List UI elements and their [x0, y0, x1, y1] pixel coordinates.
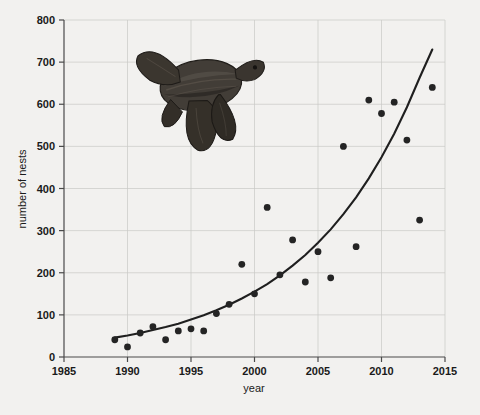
data-point — [416, 217, 423, 224]
data-point — [213, 310, 220, 317]
data-point — [162, 336, 169, 343]
data-point — [124, 343, 131, 350]
data-point — [137, 330, 144, 337]
data-point — [111, 336, 118, 343]
y-tick-label: 600 — [37, 98, 55, 110]
y-tick-label: 800 — [37, 14, 55, 26]
y-axis-label: number of nests — [16, 149, 28, 228]
data-point — [391, 99, 398, 106]
data-point — [340, 143, 347, 150]
data-point — [150, 323, 157, 330]
data-point — [365, 97, 372, 104]
nesting-trend-scatter-chart: 0100200300400500600700800 19851990199520… — [0, 0, 480, 415]
data-point — [404, 137, 411, 144]
x-axis-label: year — [243, 382, 265, 394]
x-tick-label: 2005 — [306, 365, 330, 377]
y-tick-label: 700 — [37, 56, 55, 68]
data-point — [315, 248, 322, 255]
data-point — [429, 84, 436, 91]
data-point — [251, 290, 258, 297]
data-point — [188, 325, 195, 332]
data-point — [353, 243, 360, 250]
data-point — [226, 301, 233, 308]
x-tick-label: 1995 — [179, 365, 203, 377]
data-point — [378, 110, 385, 117]
data-point — [327, 274, 334, 281]
y-tick-label: 100 — [37, 309, 55, 321]
data-point — [302, 279, 309, 286]
data-point — [175, 327, 182, 334]
data-point — [277, 271, 284, 278]
x-tick-label: 2010 — [369, 365, 393, 377]
x-tick-label: 2015 — [433, 365, 457, 377]
data-point — [289, 236, 296, 243]
x-tick-label: 2000 — [242, 365, 266, 377]
y-tick-label: 400 — [37, 183, 55, 195]
x-tick-label: 1990 — [115, 365, 139, 377]
x-tick-label: 1985 — [52, 365, 76, 377]
data-point — [238, 261, 245, 268]
data-point — [200, 327, 207, 334]
y-tick-label: 200 — [37, 267, 55, 279]
y-tick-label: 300 — [37, 225, 55, 237]
y-tick-label: 500 — [37, 140, 55, 152]
data-point — [264, 204, 271, 211]
y-tick-label: 0 — [49, 351, 55, 363]
